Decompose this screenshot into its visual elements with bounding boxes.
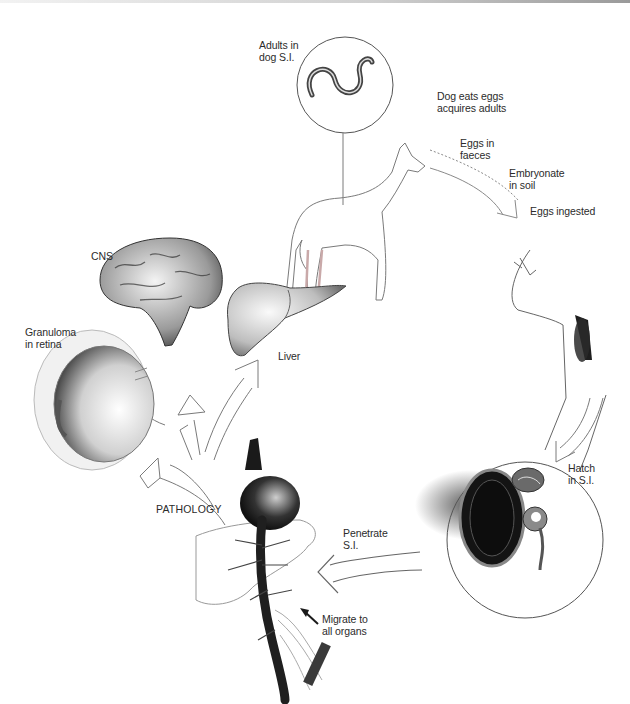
circulation-illustration: [196, 438, 331, 700]
brain-illustration: [100, 238, 222, 346]
head-swallowing-illustration: [512, 250, 606, 470]
pathology-arrows: [135, 360, 258, 525]
label-adults-in-dog: Adults in dog S.I.: [259, 39, 298, 63]
label-eggs-ingested: Eggs ingested: [530, 205, 595, 217]
label-liver: Liver: [278, 350, 300, 362]
label-dog-eats-eggs: Dog eats eggs acquires adults: [437, 90, 506, 114]
label-granuloma-in-retina: Granuloma in retina: [25, 326, 76, 350]
label-embryonate-in-soil: Embryonate in soil: [509, 167, 565, 191]
arrow-penetrate: [318, 552, 422, 593]
life-cycle-illustration: [0, 0, 630, 704]
label-migrate-to-all-organs: Migrate to all organs: [322, 613, 368, 637]
arrow-to-intestine: [556, 398, 603, 462]
dog-illustration: [286, 37, 425, 300]
eye-illustration: [34, 330, 154, 470]
label-penetrate-si: Penetrate S.I.: [343, 527, 388, 551]
label-pathology: PATHOLOGY: [156, 503, 222, 515]
label-eggs-in-faeces: Eggs in faeces: [460, 137, 494, 161]
label-cns: CNS: [91, 250, 113, 262]
label-hatch-in-si: Hatch in S.I.: [568, 462, 595, 486]
liver-illustration: [227, 283, 346, 356]
